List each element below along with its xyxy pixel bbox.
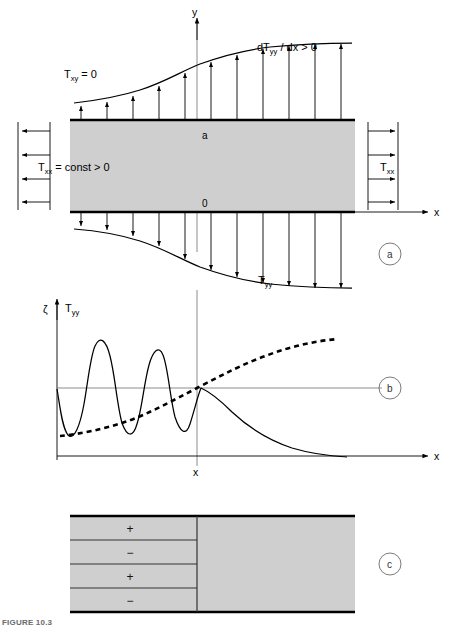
panel-a-slab — [70, 120, 355, 212]
panel-c-band-sign-4: − — [126, 594, 133, 608]
panel-a-x-axis-label: x — [434, 206, 440, 218]
panel-a-y-axis-label: y — [192, 6, 198, 18]
panel-b-group: ζ Tyy x x b — [43, 290, 440, 478]
panel-a-upper-arrows — [81, 44, 341, 120]
panel-b-tyy-label: Tyy — [65, 302, 79, 317]
panel-b-x-axis-label: x — [434, 450, 440, 462]
panel-a-group: y x a 0 Txy = 0 dTyy / dx > 0 Txx = cons… — [18, 6, 440, 289]
panel-a-gradient-label: dTyy / dx > 0 — [257, 41, 317, 56]
panel-a-txx-right-label: Txx — [380, 161, 394, 176]
panel-a-lower-arrows — [81, 212, 341, 288]
panel-a-tick-zero-label: 0 — [202, 198, 208, 209]
panel-a-shear-label: Txy = 0 — [64, 68, 97, 83]
panel-marker-a-label: a — [387, 249, 393, 260]
panel-a-left-traction — [18, 122, 50, 210]
panel-c-group: + − + − c — [70, 516, 401, 612]
figure-canvas: y x a 0 Txy = 0 dTyy / dx > 0 Txx = cons… — [0, 0, 456, 629]
panel-marker-b-label: b — [387, 383, 393, 394]
figure-caption: FIGURE 10.3 — [2, 618, 52, 627]
panel-a-tick-a-label: a — [202, 130, 208, 141]
panel-b-zeta-label: ζ — [43, 303, 48, 315]
figure-root: y x a 0 Txy = 0 dTyy / dx > 0 Txx = cons… — [0, 0, 456, 629]
panel-b-x-tick-label: x — [193, 466, 199, 478]
panel-a-lower-tyy-curve — [74, 229, 352, 288]
panel-b-oscillating-curve — [57, 340, 347, 457]
panel-marker-c-label: c — [387, 559, 392, 570]
panel-c-band-sign-1: + — [126, 522, 133, 536]
panel-b-dashed-curve — [60, 339, 338, 436]
panel-a-tyy-label: Tyy — [258, 274, 272, 289]
panel-c-band-sign-2: − — [126, 546, 133, 560]
panel-c-band-sign-3: + — [126, 570, 133, 584]
